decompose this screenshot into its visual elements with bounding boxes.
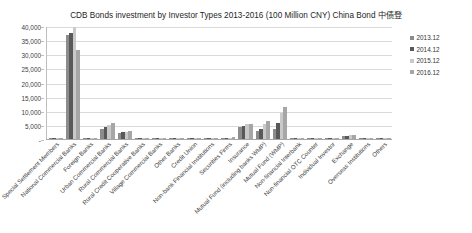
bar-group (340, 27, 357, 139)
bar (128, 131, 132, 139)
bar (352, 135, 356, 139)
bar-group (168, 27, 185, 139)
y-axis-tick (41, 41, 44, 42)
legend-label: 2013.12 (417, 34, 440, 41)
y-axis-tick-label: 20,000 (21, 80, 41, 87)
y-axis-tick-label: 40,000 (21, 24, 41, 31)
bar (283, 107, 287, 139)
bar (249, 124, 253, 139)
y-axis-tick-label: 5,000 (25, 122, 41, 129)
bar (387, 138, 391, 139)
y-axis-tick (41, 126, 44, 127)
bar-group (116, 27, 133, 139)
y-axis-tick-label: 30,000 (21, 52, 41, 59)
bar (370, 138, 374, 139)
y-axis-tick (41, 140, 44, 141)
bar-group (99, 27, 116, 139)
bar-group (323, 27, 340, 139)
legend-item[interactable]: 2015.12 (410, 55, 466, 67)
bar-group (254, 27, 271, 139)
y-axis-tick-label: 10,000 (21, 108, 41, 115)
bar (145, 138, 149, 139)
legend-swatch-icon (410, 36, 414, 40)
legend-item[interactable]: 2013.12 (410, 32, 466, 44)
bar-group (64, 27, 81, 139)
y-axis-tick (41, 98, 44, 99)
legend-swatch-icon (410, 47, 414, 51)
bar-group (151, 27, 168, 139)
x-axis-line (46, 139, 392, 140)
legend-label: 2015.12 (417, 57, 440, 64)
bar-group (306, 27, 323, 139)
chart-container: CDB Bonds investment by Investor Types 2… (0, 0, 472, 233)
bar (111, 123, 115, 139)
bar-group (82, 27, 99, 139)
bar (180, 138, 184, 139)
bar-group (289, 27, 306, 139)
bar (335, 138, 339, 139)
legend-item[interactable]: 2016.12 (410, 67, 466, 79)
bar (266, 121, 270, 139)
bar (94, 138, 98, 139)
bar-group (237, 27, 254, 139)
y-axis-tick (41, 84, 44, 85)
legend-swatch-icon (410, 70, 414, 74)
legend-item[interactable]: 2014.12 (410, 44, 466, 56)
plot-area (46, 27, 392, 140)
bar (76, 50, 80, 139)
x-axis-labels: Special Settlement MembersNational Comme… (47, 141, 392, 233)
bar-group (202, 27, 219, 139)
y-axis: 40,00035,00030,00025,00020,00015,00010,0… (0, 27, 44, 140)
bar (232, 137, 236, 139)
bar (301, 138, 305, 139)
y-axis-tick (41, 55, 44, 56)
bars-layer (47, 27, 392, 139)
y-axis-tick (41, 27, 44, 28)
legend-label: 2016.12 (417, 69, 440, 76)
bar-group (271, 27, 288, 139)
y-axis-tick (41, 112, 44, 113)
bar (59, 138, 63, 139)
bar (197, 138, 201, 139)
bar-group (185, 27, 202, 139)
bar (163, 138, 167, 139)
y-axis-tick-label: 25,000 (21, 66, 41, 73)
bar-group (133, 27, 150, 139)
bar-group (358, 27, 375, 139)
y-axis-tick (41, 69, 44, 70)
bar-group (47, 27, 64, 139)
bar (214, 138, 218, 139)
y-axis-tick-label: 15,000 (21, 94, 41, 101)
chart-legend: 2013.122014.122015.122016.12 (408, 30, 468, 80)
chart-title: CDB Bonds investment by Investor Types 2… (0, 8, 472, 20)
legend-swatch-icon (410, 59, 414, 63)
y-axis-tick-label: 35,000 (21, 38, 41, 45)
bar-group (220, 27, 237, 139)
x-axis-tick-label: Others (371, 141, 388, 158)
bar-group (375, 27, 392, 139)
bar (318, 138, 322, 139)
legend-label: 2014.12 (417, 46, 440, 53)
